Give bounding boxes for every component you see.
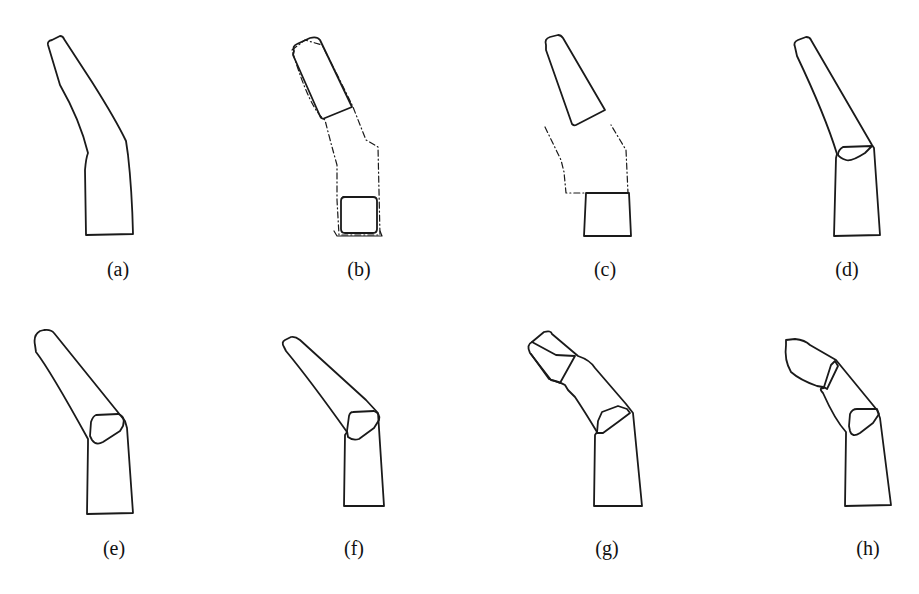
panel-a-shape bbox=[48, 36, 133, 235]
panel-g-shape bbox=[528, 331, 642, 506]
panel-e-shape bbox=[35, 330, 133, 514]
figure: (a) (b) (c) (d) (e) (f) (g) (h) bbox=[0, 0, 919, 594]
panel-c-label: (c) bbox=[575, 258, 635, 281]
panel-f-shape bbox=[283, 337, 384, 506]
panel-d-shape bbox=[794, 37, 880, 236]
panel-c-shape bbox=[545, 35, 631, 236]
panel-b-shape bbox=[292, 37, 382, 236]
panel-f-label: (f) bbox=[324, 537, 384, 560]
panel-h-shape bbox=[786, 339, 891, 506]
panel-g-label: (g) bbox=[577, 537, 637, 560]
panel-a-label: (a) bbox=[88, 258, 148, 281]
panel-b-label: (b) bbox=[329, 258, 389, 281]
panel-d-label: (d) bbox=[817, 258, 877, 281]
panel-h-label: (h) bbox=[838, 537, 898, 560]
panel-e-label: (e) bbox=[84, 537, 144, 560]
figure-drawings bbox=[0, 0, 919, 594]
